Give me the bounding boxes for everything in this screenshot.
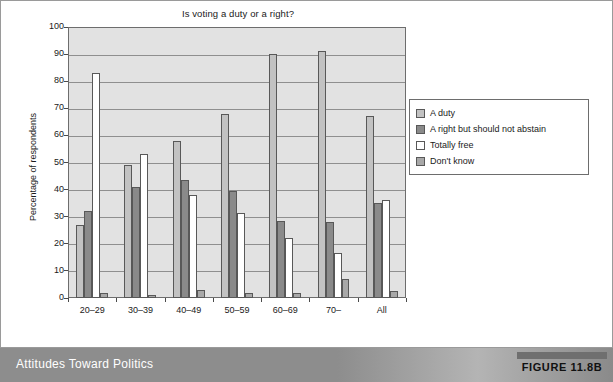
legend-item-label: A duty bbox=[430, 108, 455, 118]
legend-item-label: Totally free bbox=[430, 140, 474, 150]
y-axis-tick-label: 30 bbox=[40, 212, 64, 221]
y-axis-tick-label: 80 bbox=[40, 76, 64, 85]
plot-area bbox=[68, 27, 406, 298]
y-axis-tick-label: 50 bbox=[40, 158, 64, 167]
y-axis-tick-mark bbox=[64, 81, 68, 82]
y-axis-tick-label: 10 bbox=[40, 266, 64, 275]
figure-number-label: FIGURE 11.8B bbox=[517, 361, 607, 373]
gridline bbox=[69, 82, 405, 83]
y-axis-title: Percentage of respondents bbox=[28, 72, 38, 262]
gridline bbox=[69, 136, 405, 137]
x-axis-tick-mark bbox=[358, 298, 359, 302]
legend-swatch-icon bbox=[416, 125, 425, 134]
gridline bbox=[69, 190, 405, 191]
y-axis-tick-label: 100 bbox=[40, 22, 64, 31]
x-axis-tick-label: 70– bbox=[309, 305, 357, 315]
y-axis-tick-label: 20 bbox=[40, 239, 64, 248]
y-axis-tick-mark bbox=[64, 54, 68, 55]
x-axis-tick-label: 20–29 bbox=[68, 305, 116, 315]
y-axis-tick-mark bbox=[64, 216, 68, 217]
chart-legend: A dutyA right but should not abstainTota… bbox=[409, 99, 589, 175]
legend-swatch-icon bbox=[416, 141, 425, 150]
y-axis-tick-mark bbox=[64, 243, 68, 244]
gridline bbox=[69, 271, 405, 272]
footer-band: Attitudes Toward Politics FIGURE 11.8B bbox=[0, 348, 613, 382]
gridline bbox=[69, 217, 405, 218]
legend-swatch-icon bbox=[416, 157, 425, 166]
y-axis-tick-mark bbox=[64, 270, 68, 271]
x-axis-tick-mark bbox=[165, 298, 166, 302]
legend-item-label: Don't know bbox=[430, 156, 474, 166]
x-axis-tick-mark bbox=[116, 298, 117, 302]
legend-item: A duty bbox=[416, 105, 582, 121]
x-axis-tick-mark bbox=[68, 298, 69, 302]
y-axis-tick-label: 70 bbox=[40, 103, 64, 112]
gridline bbox=[69, 55, 405, 56]
x-axis-tick-label: 50–59 bbox=[213, 305, 261, 315]
legend-item: Don't know bbox=[416, 153, 582, 169]
x-axis-tick-mark bbox=[213, 298, 214, 302]
legend-item-label: A right but should not abstain bbox=[430, 124, 546, 134]
figure-caption: Attitudes Toward Politics bbox=[16, 357, 153, 371]
figure-root: Is voting a duty or a right? Percentage … bbox=[0, 0, 613, 382]
x-axis-tick-label: All bbox=[358, 305, 406, 315]
y-axis-tick-labels: 0102030405060708090100 bbox=[38, 27, 64, 298]
x-axis-tick-label: 40–49 bbox=[165, 305, 213, 315]
x-axis-tick-mark bbox=[309, 298, 310, 302]
x-axis-tick-label: 60–69 bbox=[261, 305, 309, 315]
y-axis-tick-label: 90 bbox=[40, 49, 64, 58]
figure-tab-accent-bar bbox=[517, 352, 607, 359]
figure-number-tab: FIGURE 11.8B bbox=[517, 352, 607, 378]
legend-item: A right but should not abstain bbox=[416, 121, 582, 137]
y-axis-tick-mark bbox=[64, 135, 68, 136]
y-axis-tick-label: 60 bbox=[40, 130, 64, 139]
y-axis-tick-label: 0 bbox=[40, 293, 64, 302]
x-axis-tick-mark bbox=[261, 298, 262, 302]
y-axis-tick-mark bbox=[64, 27, 68, 28]
gridline bbox=[69, 244, 405, 245]
y-axis-tick-mark bbox=[64, 162, 68, 163]
y-axis-tick-mark bbox=[64, 189, 68, 190]
legend-item: Totally free bbox=[416, 137, 582, 153]
legend-swatch-icon bbox=[416, 109, 425, 118]
x-axis-tick-label: 30–39 bbox=[116, 305, 164, 315]
y-axis-tick-mark bbox=[64, 108, 68, 109]
x-axis-tick-mark bbox=[406, 298, 407, 302]
gridline bbox=[69, 163, 405, 164]
chart-title: Is voting a duty or a right? bbox=[68, 8, 408, 19]
y-axis-tick-label: 40 bbox=[40, 185, 64, 194]
gridline bbox=[69, 109, 405, 110]
